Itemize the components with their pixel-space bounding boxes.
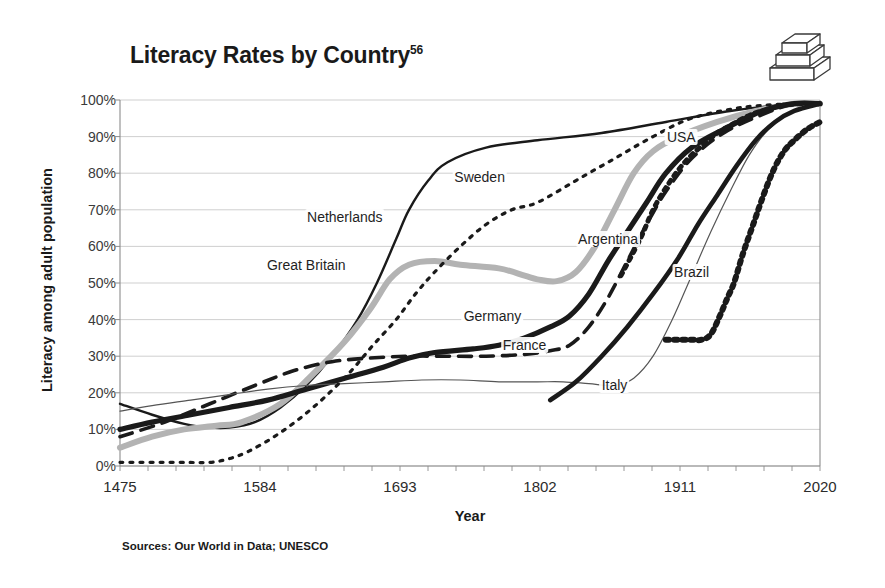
series-label-argentina: Argentina (576, 231, 640, 247)
series-label-italy: Italy (600, 377, 630, 393)
chart-figure: Literacy Rates by Country56 0%10%20%30%4… (0, 0, 885, 588)
series-line-italy (120, 104, 820, 411)
plot-area (0, 0, 885, 588)
series-label-great-britain: Great Britain (265, 257, 348, 273)
series-label-france: France (501, 337, 549, 353)
series-label-usa: USA (665, 129, 698, 145)
series-label-germany: Germany (462, 308, 524, 324)
series-label-sweden: Sweden (452, 169, 507, 185)
series-label-brazil: Brazil (672, 264, 711, 280)
series-label-netherlands: Netherlands (305, 209, 385, 225)
